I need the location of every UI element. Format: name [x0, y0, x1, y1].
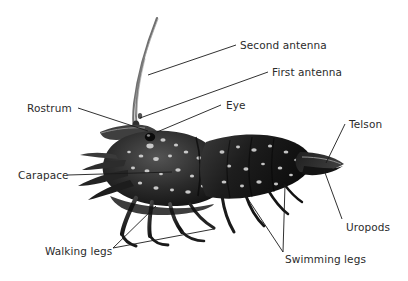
label-walking-legs: Walking legs: [45, 245, 112, 257]
label-swimming-legs: Swimming legs: [285, 253, 366, 265]
leader-walking-legs-b: [113, 229, 214, 248]
label-telson: Telson: [349, 118, 382, 130]
leader-walking-legs-a: [113, 206, 156, 248]
leader-first-antenna: [140, 72, 268, 118]
leader-lines: [0, 0, 408, 281]
leader-uropods: [324, 170, 342, 219]
label-second-antenna: Second antenna: [240, 39, 327, 51]
leader-second-antenna: [148, 45, 236, 75]
leader-eye: [157, 105, 221, 132]
leader-swimming-legs-a: [246, 196, 283, 252]
label-eye: Eye: [226, 99, 246, 111]
leader-telson: [326, 124, 345, 163]
leader-carapace: [68, 172, 172, 175]
leader-rostrum: [78, 108, 148, 131]
label-rostrum: Rostrum: [27, 102, 72, 114]
label-carapace: Carapace: [18, 169, 69, 181]
leader-swimming-legs-b: [283, 185, 285, 252]
label-uropods: Uropods: [346, 221, 390, 233]
anatomy-figure: Second antenna First antenna Rostrum Eye…: [0, 0, 408, 281]
label-first-antenna: First antenna: [272, 66, 342, 78]
